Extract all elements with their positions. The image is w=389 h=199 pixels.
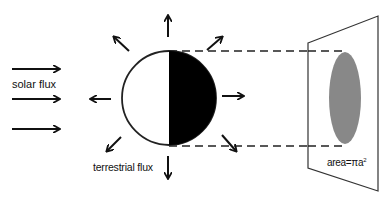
planet-night-side (169, 51, 216, 145)
shadow-disk (329, 52, 361, 144)
arrow-down-right-icon (222, 135, 236, 151)
area-exponent: 2 (363, 157, 366, 163)
planet (122, 51, 216, 145)
area-label: area=πa2 (327, 157, 366, 168)
arrow-up-left-icon (114, 37, 129, 51)
solar-flux-label: solar flux (12, 78, 56, 90)
terrestrial-flux-label: terrestrial flux (93, 161, 153, 173)
area-label-text: area=πa (327, 157, 363, 168)
arrow-up-right-icon (207, 37, 222, 50)
arrow-down-left-icon (107, 137, 121, 151)
energy-balance-diagram (0, 0, 389, 199)
